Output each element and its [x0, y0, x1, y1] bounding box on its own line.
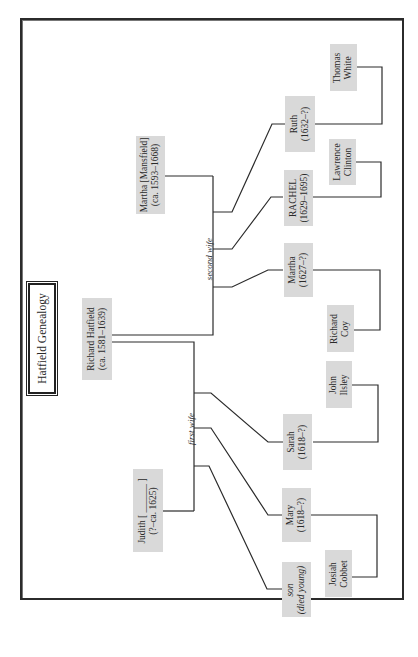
name-line-1: John: [328, 374, 339, 395]
person-name: Martha: [288, 253, 299, 287]
name-line-1: Richard: [330, 313, 341, 343]
person-name: son: [286, 565, 297, 613]
person-name: Ruth: [289, 107, 300, 141]
person-dates: (?–ca. 1625): [148, 478, 159, 543]
person-name: Martha [Mansfield]: [140, 138, 151, 213]
person-name: Richard Hatfield: [86, 307, 97, 371]
person-dates: (died young): [297, 565, 308, 613]
person-son: son (died young): [282, 562, 311, 617]
person-thomas-white: Thomas White: [330, 44, 357, 91]
person-sarah: Sarah (1618–?): [283, 414, 312, 470]
name-line-1: Thomas: [333, 52, 344, 83]
connector-lines: [0, 0, 418, 657]
label-second-wife: second wife: [204, 238, 214, 280]
person-lawrence-clinton: Lawrence Clinton: [329, 139, 356, 185]
person-dates: (1629–1695): [299, 173, 310, 222]
name-line-2: White: [344, 52, 355, 83]
person-name: Mary: [286, 498, 297, 532]
person-name: RACHEL: [288, 173, 299, 222]
person-ruth: Ruth (1632–?): [285, 96, 315, 152]
person-josiah-cobbet: Josiah Cobbet: [325, 550, 352, 597]
person-mary: Mary (1618–?): [282, 488, 311, 542]
person-name: Judith [ ______ ]: [137, 478, 148, 543]
person-dates: (ca. 1581–1639): [97, 307, 108, 371]
person-john-ilsley: John Ilsley: [326, 361, 352, 408]
name-line-1: Josiah: [328, 560, 339, 587]
name-line-2: Ilsley: [339, 374, 350, 395]
person-rachel: RACHEL (1629–1695): [284, 170, 313, 226]
person-dates: (ca. 1593–1668): [151, 138, 162, 213]
person-dates: (1627–?): [299, 253, 310, 287]
name-line-1: Lawrence: [332, 143, 343, 180]
person-name: Sarah: [287, 425, 298, 459]
person-dates: (1618–?): [298, 425, 309, 459]
name-line-2: Cobbet: [339, 560, 350, 587]
person-dates: (1618–?): [297, 498, 308, 532]
title-text: Hatfield Genealogy: [37, 293, 48, 383]
person-judith: Judith [ ______ ] (?–ca. 1625): [133, 469, 163, 552]
person-dates: (1632–?): [300, 107, 311, 141]
name-line-2: Coy: [341, 313, 352, 343]
person-richard-coy: Richard Coy: [327, 305, 354, 352]
diagram-title: Hatfield Genealogy: [28, 283, 56, 394]
label-first-wife: first wife: [186, 413, 196, 445]
person-richard-hatfield: Richard Hatfield (ca. 1581–1639): [82, 298, 112, 380]
name-line-2: Clinton: [343, 143, 354, 180]
person-martha-mansfield: Martha [Mansfield] (ca. 1593–1668): [136, 136, 165, 214]
person-martha: Martha (1627–?): [284, 243, 313, 297]
